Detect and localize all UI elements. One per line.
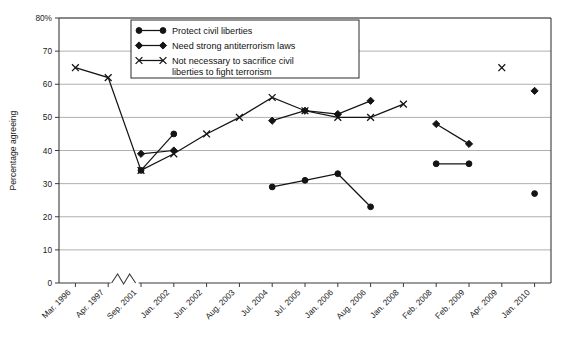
x-axis-tick-label: Aug. 2003	[203, 287, 237, 321]
legend-label-3: Not necessary to sacrifice civil	[172, 56, 294, 66]
x-axis-tick-label: Jan. 2002	[138, 287, 171, 320]
x-axis-tick-label: Apr. 1997	[73, 287, 105, 319]
data-point-1-12	[466, 161, 472, 167]
data-point-3-6	[269, 94, 276, 101]
data-point-legend-1b	[160, 28, 166, 34]
data-point-2-14	[531, 87, 538, 94]
x-axis-tick-label: Mar. 1996	[40, 287, 73, 320]
data-point-3-0	[72, 64, 79, 71]
data-point-1-11	[433, 161, 439, 167]
y-axis-tick-label: 30	[43, 179, 53, 189]
y-axis-tick-label: 80%	[35, 13, 52, 23]
x-axis-tick-label: Aug. 2006	[334, 287, 368, 321]
data-point-1-8	[335, 171, 341, 177]
y-axis-tick-label: 50	[43, 112, 53, 122]
series-line-3	[75, 68, 403, 171]
legend-label-4: liberties to fight terrorism	[172, 67, 272, 77]
line-chart: 01020304050607080%Percentage agreeingMar…	[0, 0, 563, 337]
x-axis-tick-label: Jan. 2006	[302, 287, 335, 320]
data-point-2-2	[137, 150, 144, 157]
data-point-1-7	[302, 177, 308, 183]
data-point-2-12	[465, 140, 472, 147]
series-line-1	[272, 174, 370, 207]
x-axis-tick-label: Jan. 2010	[499, 287, 532, 320]
x-axis-tick-label: Jul. 2005	[272, 287, 303, 318]
x-axis-tick-label: Jun. 2002	[171, 287, 204, 320]
legend: Protect civil libertiesNeed strong antit…	[131, 20, 359, 78]
series-line-2	[141, 151, 174, 154]
data-point-1-14	[532, 191, 538, 197]
legend-label-2: Need strong antiterrorism laws	[172, 41, 296, 51]
data-point-3-1	[105, 74, 112, 81]
legend-label-1: Protect civil liberties	[172, 26, 253, 36]
data-point-2-6	[269, 117, 276, 124]
data-point-2-9	[367, 97, 374, 104]
chart-container: 01020304050607080%Percentage agreeingMar…	[0, 0, 563, 337]
x-axis-tick-label: Apr. 2009	[467, 287, 499, 319]
series-2	[137, 87, 538, 157]
data-point-1-6	[269, 184, 275, 190]
y-axis-tick-label: 40	[43, 146, 53, 156]
series-3	[72, 64, 505, 173]
series-1	[138, 131, 537, 210]
x-axis-labels-group: Mar. 1996Apr. 1997Sep. 2001Jan. 2002Jun.…	[40, 283, 535, 321]
x-axis-tick-label: Jan. 2008	[368, 287, 401, 320]
y-axis-tick-label: 20	[43, 212, 53, 222]
y-axis-tick-label: 70	[43, 46, 53, 56]
series-line-2	[436, 124, 469, 144]
data-point-3-13	[498, 64, 505, 71]
x-axis-tick-label: Feb. 2009	[433, 287, 467, 321]
y-axis-tick-label: 0	[47, 278, 52, 288]
y-axis-tick-label: 60	[43, 79, 53, 89]
data-point-2-11	[433, 120, 440, 127]
x-axis-tick-label: Jul. 2004	[239, 287, 270, 318]
data-point-3-4	[203, 131, 210, 138]
y-axis-tick-label: 10	[43, 245, 53, 255]
x-axis-tick-label: Sep. 2001	[105, 287, 139, 321]
data-point-3-10	[400, 101, 407, 108]
data-point-1-9	[368, 204, 374, 210]
data-point-legend-1	[136, 28, 142, 34]
y-axis-title: Percentage agreeing	[8, 110, 18, 190]
x-axis-tick-label: Feb. 2008	[400, 287, 434, 321]
data-point-1-3	[171, 131, 177, 137]
